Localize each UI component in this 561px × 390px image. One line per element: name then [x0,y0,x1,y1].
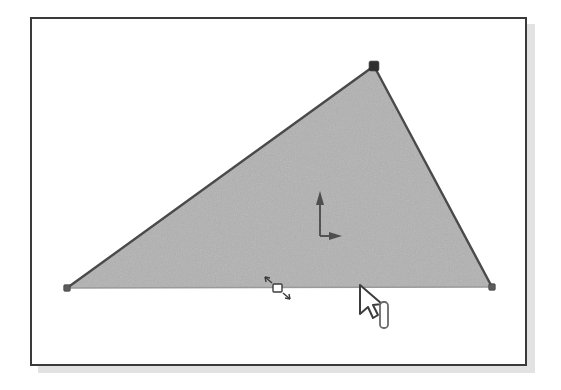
drawing-canvas[interactable] [32,19,525,364]
triangle-shape[interactable] [67,66,492,288]
triangle-fill-texture [67,66,492,288]
edge-handle-box[interactable] [273,284,282,292]
scale-bar-widget[interactable] [380,302,388,328]
figure-root [0,0,561,390]
drawing-canvas-window[interactable] [30,17,527,366]
edge-handle-barb-d [289,294,290,299]
canvas-scene[interactable] [32,19,527,366]
mouse-cursor [360,285,382,318]
scale-bar-body[interactable] [380,302,388,328]
edge-handle-barb-b [265,277,266,282]
cursor-arrow-icon [360,285,382,318]
vertex-handle-right[interactable] [489,284,495,290]
vertex-handle-left[interactable] [64,285,70,291]
vertex-handle-apex[interactable] [369,61,379,71]
